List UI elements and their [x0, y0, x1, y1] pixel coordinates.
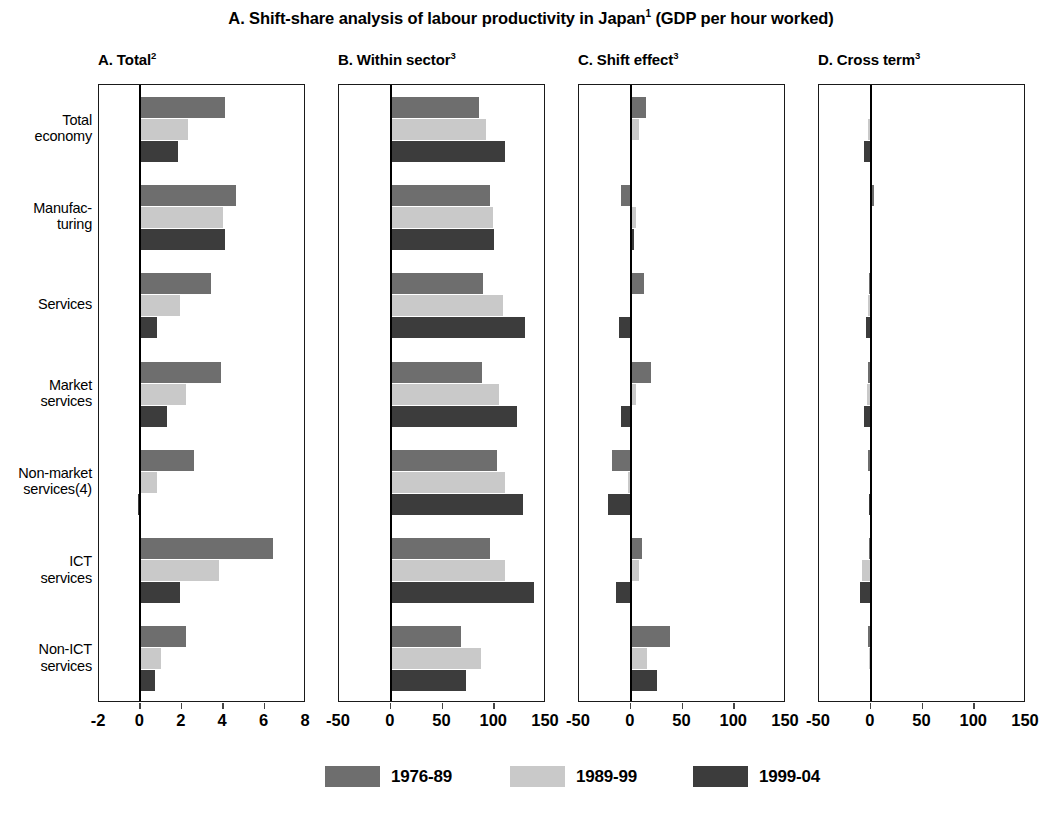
bar	[391, 626, 461, 647]
legend-item: 1976-89	[325, 766, 452, 787]
bar	[631, 648, 648, 669]
bar	[391, 185, 490, 206]
legend-item: 1989-99	[510, 766, 637, 787]
x-axis-tick-label: 50	[672, 711, 690, 730]
plot-area-total	[98, 84, 305, 702]
bar	[631, 538, 642, 559]
bar	[631, 670, 657, 691]
x-axis-tick-label: -50	[566, 711, 590, 730]
category-label: Totaleconomy	[35, 112, 92, 145]
bar	[391, 229, 495, 250]
bar	[391, 648, 481, 669]
category-label-line: services	[40, 393, 92, 410]
bar	[391, 494, 523, 515]
x-axis-tick	[181, 703, 182, 709]
category-label-line: Services	[38, 296, 92, 313]
panel-title-shift: C. Shift effect3	[578, 50, 678, 68]
category-label-line: services	[40, 570, 92, 587]
x-axis-tick	[973, 703, 974, 709]
x-axis-tick-label: 100	[479, 711, 507, 730]
plot-area-cross	[818, 84, 1025, 702]
category-label-line: Market	[40, 377, 92, 394]
bar	[140, 229, 225, 250]
category-label-line: Non-market	[18, 465, 92, 482]
bar	[631, 626, 670, 647]
category-label-line: Non-ICT	[39, 641, 92, 658]
category-label: Non-ICTservices	[39, 641, 92, 674]
panel-title-footnote: 3	[915, 50, 920, 61]
category-label: Non-marketservices(4)	[18, 465, 92, 498]
bar	[140, 582, 179, 603]
legend-swatch	[693, 766, 748, 787]
bar	[391, 97, 479, 118]
x-axis-tick	[493, 703, 494, 709]
x-axis-tick-label: 150	[1011, 711, 1039, 730]
zero-line	[870, 85, 872, 701]
x-axis-tick-label: -2	[91, 711, 106, 730]
x-axis-tick	[630, 703, 631, 709]
bar	[631, 362, 652, 383]
plot-area-shift	[578, 84, 785, 702]
panel-title-text: B. Within sector	[338, 51, 450, 68]
x-axis-tick-label: 100	[959, 711, 987, 730]
x-axis-tick-label: 150	[531, 711, 559, 730]
figure-title-tail: (GDP per hour worked)	[651, 9, 834, 27]
bar	[391, 362, 482, 383]
panel-title-cross: D. Cross term3	[818, 50, 920, 68]
bar	[140, 317, 157, 338]
category-label-line: Total	[35, 112, 92, 129]
bar	[391, 295, 503, 316]
legend-swatch	[325, 766, 380, 787]
zero-line	[390, 85, 392, 701]
panel-title-footnote: 3	[673, 50, 678, 61]
plot-area-within	[338, 84, 545, 702]
x-axis-tick-label: 8	[300, 711, 309, 730]
figure-root: A. Shift-share analysis of labour produc…	[0, 0, 1062, 818]
category-label-line: Manufac-	[33, 200, 92, 217]
x-axis-tick-label: -50	[806, 711, 830, 730]
bar	[391, 560, 505, 581]
bar	[391, 141, 505, 162]
bar	[391, 119, 486, 140]
bar	[391, 538, 490, 559]
x-axis-tick-label: -50	[326, 711, 350, 730]
figure-title-main: A. Shift-share analysis of labour produc…	[228, 9, 645, 27]
bar	[391, 472, 505, 493]
bar	[140, 406, 167, 427]
bar	[140, 141, 177, 162]
category-label: Manufac-turing	[33, 200, 92, 233]
x-axis-tick-label: 4	[218, 711, 227, 730]
bar	[391, 582, 534, 603]
bar	[140, 648, 161, 669]
bar	[391, 317, 526, 338]
panel-title-within: B. Within sector3	[338, 50, 456, 68]
bar	[140, 185, 235, 206]
legend-item: 1999-04	[693, 766, 820, 787]
x-axis-tick-label: 0	[625, 711, 634, 730]
x-axis-tick-label: 6	[259, 711, 268, 730]
bar	[140, 97, 225, 118]
category-label-line: ICT	[40, 553, 92, 570]
bar	[616, 582, 630, 603]
bar	[140, 450, 194, 471]
bar	[631, 97, 647, 118]
category-label-line: economy	[35, 128, 92, 145]
legend-label: 1989-99	[576, 767, 637, 787]
category-label-line: services(4)	[18, 481, 92, 498]
x-axis-tick-label: 100	[719, 711, 747, 730]
bar	[140, 472, 157, 493]
bar	[140, 119, 188, 140]
legend-swatch	[510, 766, 565, 787]
x-axis-tick	[870, 703, 871, 709]
category-label-line: turing	[33, 216, 92, 233]
x-axis-tick-label: 50	[432, 711, 450, 730]
legend-label: 1999-04	[759, 767, 820, 787]
x-axis-tick	[442, 703, 443, 709]
bar	[140, 273, 210, 294]
bar	[140, 626, 186, 647]
category-label: ICTservices	[40, 553, 92, 586]
bar	[391, 670, 467, 691]
bar	[140, 384, 186, 405]
panel-title-text: C. Shift effect	[578, 51, 673, 68]
bar	[391, 384, 500, 405]
